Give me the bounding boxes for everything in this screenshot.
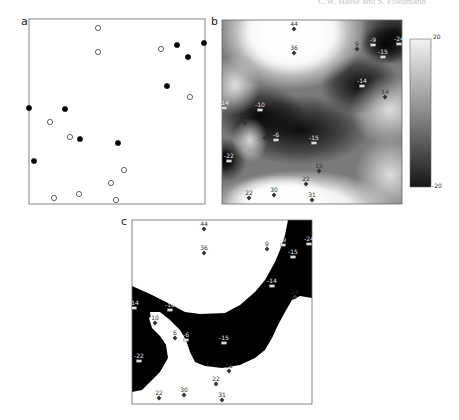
open-point — [67, 134, 72, 139]
open-point — [108, 180, 113, 185]
open-point — [113, 197, 118, 202]
negative-sample-marker — [290, 256, 295, 258]
sample-value-label: -24 — [394, 35, 404, 42]
sample-value-label: -15 — [309, 134, 319, 141]
sample-value-label: 31 — [308, 191, 316, 198]
sample-value-label: 44 — [200, 220, 208, 227]
negative-sample-marker — [226, 160, 231, 162]
filled-point — [77, 136, 82, 141]
filled-point — [62, 106, 67, 111]
colorbar — [410, 39, 431, 187]
negative-sample-marker — [311, 142, 316, 144]
open-point — [121, 167, 126, 172]
sample-value-label: -15 — [378, 48, 388, 55]
sample-value-label: -14 — [267, 277, 277, 284]
sample-value-label: 22 — [212, 375, 220, 382]
open-point — [95, 25, 100, 30]
sample-value-label: -22 — [224, 152, 234, 159]
negative-sample-marker — [370, 44, 375, 46]
sample-value-label: -10 — [165, 301, 175, 308]
sample-value-label: -9 — [370, 36, 376, 43]
filled-point — [115, 140, 120, 145]
sample-value-label: -15 — [288, 248, 298, 255]
sample-value-label: 15 — [315, 162, 323, 169]
colorbar-max-label: 20 — [433, 33, 441, 40]
sample-value-label: 30 — [270, 186, 278, 193]
sample-value-label: 31 — [218, 391, 226, 398]
sample-value-label: 9 — [265, 240, 269, 247]
open-point — [47, 119, 52, 124]
negative-sample-marker — [131, 307, 136, 309]
open-point — [187, 94, 192, 99]
sample-value-label: 44 — [290, 20, 298, 27]
sample-value-label: 14 — [291, 288, 299, 295]
negative-sample-marker — [380, 56, 385, 58]
sample-value-label: 14 — [381, 88, 389, 95]
sample-value-label: -6 — [273, 131, 279, 138]
filled-point — [164, 83, 169, 88]
sample-value-label: -14 — [357, 77, 367, 84]
negative-sample-marker — [306, 243, 311, 245]
negative-sample-marker — [359, 85, 364, 87]
sample-value-label: 36 — [200, 244, 208, 251]
sample-value-label: 9 — [355, 40, 359, 47]
sample-value-label: -9 — [280, 236, 286, 243]
sample-value-label: 22 — [245, 189, 253, 196]
negative-sample-marker — [221, 342, 226, 344]
negative-sample-marker — [273, 139, 278, 141]
sample-value-label: -24 — [304, 235, 314, 242]
sample-value-label: -22 — [134, 352, 144, 359]
negative-sample-marker — [396, 43, 401, 45]
sample-value-label: 10 — [151, 314, 159, 321]
negative-sample-marker — [269, 285, 274, 287]
sample-value-label: -14 — [129, 299, 139, 306]
open-point — [51, 195, 56, 200]
sample-value-label: 15 — [225, 362, 233, 369]
sample-value-label: 36 — [290, 44, 298, 51]
negative-sample-marker — [257, 109, 262, 111]
panel-a-scatter — [26, 19, 206, 204]
filled-point — [201, 40, 206, 45]
sample-value-label: 30 — [180, 386, 188, 393]
negative-sample-marker — [280, 244, 285, 246]
negative-sample-marker — [167, 309, 172, 311]
negative-sample-marker — [183, 339, 188, 341]
sample-value-label: 6 — [263, 129, 267, 136]
open-point — [158, 46, 163, 51]
open-point — [95, 49, 100, 54]
colorbar-min-label: -20 — [432, 182, 442, 189]
sample-value-label: 10 — [241, 114, 249, 121]
panel-b-interpolated-map: 44369-9-24-15-1414-14-10106-6-15-2215222… — [203, 0, 430, 250]
figure-canvas: 44369-9-24-15-1414-14-10106-6-15-2215222… — [0, 0, 459, 420]
filled-point — [185, 54, 190, 59]
negative-sample-marker — [221, 107, 226, 109]
filled-point — [31, 158, 36, 163]
sample-value-label: 6 — [173, 329, 177, 336]
sample-value-label: 22 — [155, 389, 163, 396]
sample-value-label: 22 — [302, 175, 310, 182]
filled-point — [26, 105, 31, 110]
sample-value-label: -14 — [219, 99, 229, 106]
sample-value-label: -6 — [183, 331, 189, 338]
negative-sample-marker — [136, 360, 141, 362]
sample-value-label: -10 — [255, 101, 265, 108]
open-point — [76, 191, 81, 196]
filled-point — [174, 42, 179, 47]
panel-c-thresholded-map: 44369-9-24-15-1414-14-10106-6-15-2215222… — [129, 220, 314, 405]
sample-value-label: -15 — [219, 334, 229, 341]
